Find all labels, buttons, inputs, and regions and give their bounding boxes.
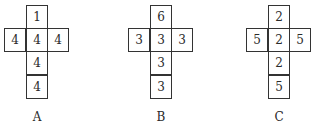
net-a-left-face: 4 [4,28,26,52]
net-a-center-face: 4 [26,28,48,52]
net-b-top-face: 6 [150,5,172,29]
net-c-label: C [268,110,290,124]
net-b-left-face: 3 [128,28,150,52]
net-b-right-face: 3 [171,28,193,52]
net-a-lower-face-1: 4 [26,51,48,75]
net-b-lower-face-2: 3 [150,75,172,99]
net-a-lower-face-2: 4 [26,75,48,99]
net-c-left-face: 5 [246,28,268,52]
net-b-label: B [150,110,172,124]
net-b-center-face: 3 [150,28,172,52]
net-c-lower-face-2: 5 [268,75,290,99]
net-b-lower-face-1: 3 [150,51,172,75]
net-a-label: A [26,110,48,124]
net-a-right-face: 4 [47,28,69,52]
net-c-center-face: 2 [268,28,290,52]
net-c-lower-face-1: 2 [268,51,290,75]
net-a-top-face: 1 [26,5,48,29]
net-c-top-face: 2 [268,5,290,29]
net-c-right-face: 5 [289,28,311,52]
